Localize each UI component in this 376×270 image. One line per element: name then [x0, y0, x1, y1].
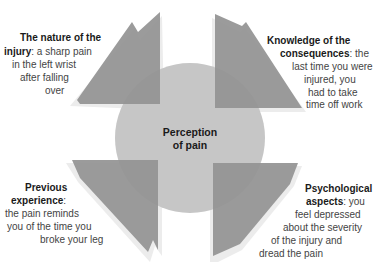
center-label: Perception of pain: [140, 126, 240, 152]
factor-line: experience:: [11, 194, 66, 207]
factor-line: about the severity: [283, 221, 362, 234]
factor-line: after falling: [20, 71, 69, 84]
factor-line: consequences: the: [280, 47, 369, 60]
factor-line: aspects: you: [306, 195, 365, 208]
factor-line: broke your leg: [40, 233, 103, 246]
factor-line: in the left wrist: [12, 58, 76, 71]
factor-line: of the injury and: [271, 234, 342, 247]
factor-line: dread the pain: [259, 247, 323, 260]
factor-line: over: [45, 84, 64, 97]
factor-line: time off work: [306, 98, 363, 111]
factor-line: injury: a sharp pain: [4, 45, 92, 58]
arrow-top-right: [215, 14, 302, 108]
factor-line: Knowledge of the: [267, 34, 350, 47]
factor-line: last time you were: [292, 60, 373, 73]
factor-line: the pain reminds: [5, 207, 79, 220]
center-label-line2: of pain: [140, 139, 240, 152]
factor-line: injured, you: [304, 73, 356, 86]
factor-line: you of the time you: [7, 220, 92, 233]
factor-line: Psychological: [305, 182, 372, 195]
factor-line: The nature of the: [20, 31, 101, 44]
arrow-top-left: [77, 12, 160, 104]
center-label-line1: Perception: [140, 126, 240, 139]
factor-line: Previous: [25, 181, 67, 194]
factor-line: feel depressed: [295, 208, 361, 221]
